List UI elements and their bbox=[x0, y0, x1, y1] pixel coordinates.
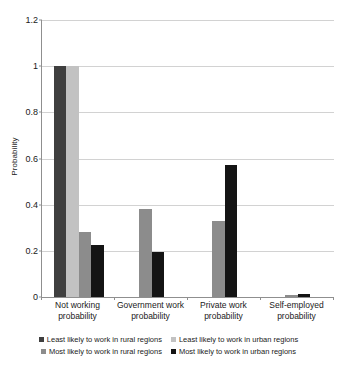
legend-label: Least likely to work in rural regions bbox=[47, 335, 162, 344]
legend-row: Least likely to work in rural regionsLea… bbox=[0, 333, 337, 345]
x-axis-label: Private workprobability bbox=[187, 300, 260, 321]
gridline-1 bbox=[42, 66, 334, 67]
legend-swatch-icon bbox=[171, 349, 176, 354]
gridline-0.8 bbox=[42, 112, 334, 113]
bar bbox=[298, 294, 311, 297]
x-axis-label: Not workingprobability bbox=[41, 300, 114, 321]
x-axis-label-line: probability bbox=[41, 311, 114, 322]
bar-chart: Probability 00.20.40.60.811.2 Not workin… bbox=[0, 0, 337, 369]
y-tick-label: 0.4 bbox=[25, 200, 38, 209]
legend-label: Most likely to work in urban regions bbox=[179, 347, 296, 356]
legend-label: Most likely to work in rural regions bbox=[49, 347, 162, 356]
y-tick-label: 0.8 bbox=[25, 108, 38, 117]
x-axis-label-line: Self-employed bbox=[260, 300, 333, 311]
x-tick-mark bbox=[187, 297, 188, 300]
gridline-0.4 bbox=[42, 205, 334, 206]
x-axis-label: Government workprobability bbox=[114, 300, 187, 321]
gridline-1.2 bbox=[42, 20, 334, 21]
y-tick-label: 0 bbox=[33, 293, 38, 302]
legend-item: Most likely to work in rural regions bbox=[41, 347, 162, 356]
bar bbox=[139, 209, 152, 297]
bar bbox=[212, 221, 225, 297]
y-tick-mark bbox=[39, 112, 42, 113]
bar bbox=[152, 252, 165, 297]
plot-area: 00.20.40.60.811.2 bbox=[41, 20, 333, 297]
y-tick-label: 1.2 bbox=[25, 16, 38, 25]
chart-legend: Least likely to work in rural regionsLea… bbox=[0, 333, 337, 357]
bar bbox=[54, 66, 67, 297]
y-tick-label: 1 bbox=[33, 62, 38, 71]
gridline-0.6 bbox=[42, 159, 334, 160]
bar bbox=[285, 295, 298, 297]
y-tick-mark bbox=[39, 66, 42, 67]
legend-swatch-icon bbox=[171, 337, 176, 342]
x-tick-mark bbox=[333, 297, 334, 300]
bar bbox=[91, 245, 104, 297]
gridline-0 bbox=[42, 297, 334, 298]
x-axis-label: Self-employedprobability bbox=[260, 300, 333, 321]
x-axis-label-line: Not working bbox=[41, 300, 114, 311]
legend-swatch-icon bbox=[41, 349, 46, 354]
bar bbox=[225, 165, 238, 297]
x-axis-label-line: probability bbox=[260, 311, 333, 322]
y-tick-mark bbox=[39, 250, 42, 251]
legend-row: Most likely to work in rural regionsMost… bbox=[0, 345, 337, 357]
x-axis-label-line: Government work bbox=[114, 300, 187, 311]
y-tick-label: 0.2 bbox=[25, 246, 38, 255]
y-axis-title: Probability bbox=[10, 107, 19, 207]
legend-swatch-icon bbox=[39, 337, 44, 342]
legend-label: Least likely to work in urban regions bbox=[179, 335, 298, 344]
x-tick-mark bbox=[114, 297, 115, 300]
x-tick-mark bbox=[260, 297, 261, 300]
y-tick-mark bbox=[39, 20, 42, 21]
legend-item: Least likely to work in urban regions bbox=[171, 335, 298, 344]
x-axis-label-line: probability bbox=[114, 311, 187, 322]
bar bbox=[66, 66, 79, 297]
y-tick-label: 0.6 bbox=[25, 154, 38, 163]
x-axis-label-line: probability bbox=[187, 311, 260, 322]
legend-item: Most likely to work in urban regions bbox=[171, 347, 296, 356]
y-tick-mark bbox=[39, 204, 42, 205]
x-tick-mark bbox=[41, 297, 42, 300]
bar bbox=[79, 232, 92, 297]
y-tick-mark bbox=[39, 158, 42, 159]
legend-item: Least likely to work in rural regions bbox=[39, 335, 162, 344]
x-axis-label-line: Private work bbox=[187, 300, 260, 311]
